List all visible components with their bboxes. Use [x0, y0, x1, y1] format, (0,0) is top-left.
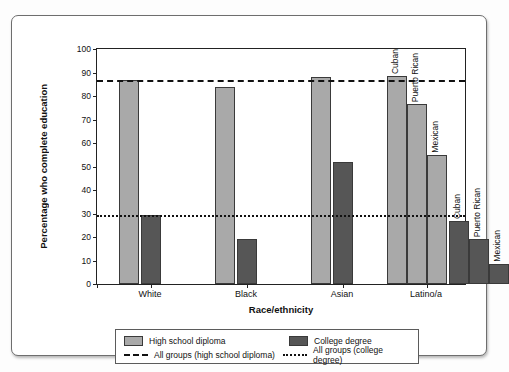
bar-latinoa-college-cuban	[449, 221, 469, 284]
bar-annotation-puerto-rican: Puerto Rican	[473, 188, 482, 237]
y-axis-tick-mark	[93, 167, 97, 168]
y-axis-tick-label: 50	[69, 162, 91, 171]
reference-line-high-school	[97, 80, 465, 82]
x-axis-tick-label-white: White	[138, 289, 161, 299]
plot-area: 0102030405060708090100CubanPuerto RicanM…	[96, 48, 466, 285]
legend-label-hs-reference: All groups (high school diploma)	[154, 350, 275, 360]
legend-row-lines: All groups (high school diploma) All gro…	[124, 348, 410, 362]
bar-latinoa-high-school-mexican	[427, 155, 447, 284]
x-axis-tick-label-asian: Asian	[331, 289, 354, 299]
y-axis-tick-label: 20	[69, 233, 91, 242]
legend-dashed-line-icon	[124, 354, 148, 356]
bar-white-high-school	[119, 80, 139, 284]
y-axis-tick-label: 70	[69, 115, 91, 124]
legend-dotted-line-icon	[283, 354, 307, 356]
x-axis-origin-tick	[97, 284, 98, 288]
y-axis-tick-mark	[93, 143, 97, 144]
figure-frame: Percentage who complete education 010203…	[11, 15, 487, 356]
x-axis-tick-mark	[151, 284, 152, 288]
bar-asian-high-school	[311, 77, 331, 284]
y-axis-tick-mark	[93, 261, 97, 262]
y-axis-tick-label: 0	[69, 280, 91, 289]
y-axis-tick-label: 30	[69, 209, 91, 218]
x-axis-tick-mark	[247, 284, 248, 288]
y-axis-tick-mark	[93, 96, 97, 97]
bar-annotation-puerto-rican: Puerto Rican	[411, 53, 420, 102]
x-axis-tick-mark	[427, 284, 428, 288]
bar-annotation-cuban: Cuban	[391, 49, 400, 74]
y-axis-tick-label: 100	[69, 45, 91, 54]
x-axis-tick-label-latinoa: Latino/a	[410, 289, 442, 299]
y-axis-tick-label: 60	[69, 139, 91, 148]
legend-item-college-reference-line: All groups (college degree)	[283, 345, 410, 365]
legend: High school diploma College degree All g…	[115, 329, 419, 364]
bar-black-college	[237, 239, 257, 284]
y-axis-tick-label: 90	[69, 68, 91, 77]
x-axis-tick-mark	[343, 284, 344, 288]
y-axis-tick-label: 40	[69, 186, 91, 195]
x-axis-tick-label-black: Black	[235, 289, 257, 299]
y-axis-tick-mark	[93, 120, 97, 121]
legend-label-high-school: High school diploma	[149, 336, 226, 346]
legend-item-hs-reference-line: All groups (high school diploma)	[124, 350, 283, 360]
bar-latinoa-high-school-puerto-rican	[407, 104, 427, 284]
reference-line-college	[97, 215, 465, 217]
chart-screenshot: Percentage who complete education 010203…	[0, 0, 509, 372]
legend-label-college-reference: All groups (college degree)	[313, 345, 410, 365]
legend-item-high-school: High school diploma	[124, 336, 289, 346]
y-axis-tick-label: 10	[69, 256, 91, 265]
bar-latinoa-college-mexican	[489, 264, 509, 284]
y-axis-tick-mark	[93, 237, 97, 238]
y-axis-title-text: Percentage who complete education	[38, 84, 49, 249]
bar-latinoa-college-puerto-rican	[469, 239, 489, 284]
y-axis-tick-label: 80	[69, 92, 91, 101]
y-axis-tick-mark	[93, 190, 97, 191]
bar-asian-college	[333, 162, 353, 284]
bar-latinoa-high-school-cuban	[387, 76, 407, 284]
y-axis-tick-mark	[93, 73, 97, 74]
bar-white-college	[141, 215, 161, 284]
x-axis-title: Race/ethnicity	[96, 304, 466, 315]
bar-annotation-mexican: Mexican	[431, 121, 440, 153]
y-axis-tick-mark	[93, 49, 97, 50]
bar-annotation-mexican: Mexican	[493, 230, 502, 262]
bar-black-high-school	[215, 87, 235, 284]
y-axis-title: Percentage who complete education	[36, 48, 50, 285]
legend-swatch-high-school-icon	[124, 336, 143, 346]
